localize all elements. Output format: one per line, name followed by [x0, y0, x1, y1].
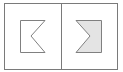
diagram-svg	[0, 0, 123, 72]
diagram-canvas	[0, 0, 123, 72]
